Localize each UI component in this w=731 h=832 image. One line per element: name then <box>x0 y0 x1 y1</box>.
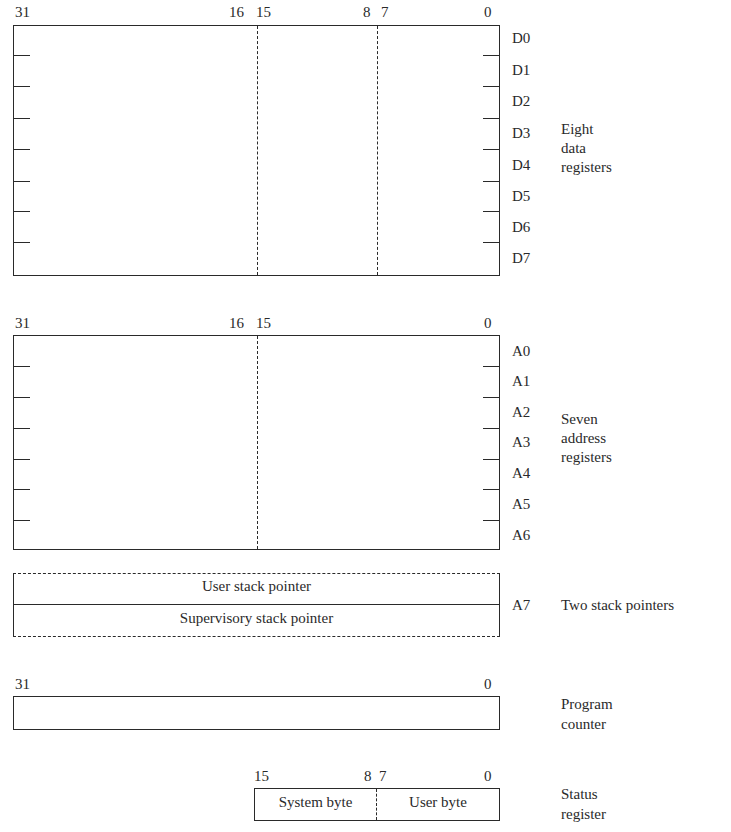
row-tick <box>483 428 499 429</box>
row-tick <box>483 489 499 490</box>
row-tick <box>14 211 30 212</box>
desc-line: Status <box>561 784 606 804</box>
row-tick <box>483 397 499 398</box>
address-registers-description: Seven address registers <box>561 410 612 467</box>
register-label-a0: A0 <box>512 343 530 359</box>
bit-label-7: 7 <box>381 4 389 20</box>
desc-line: Seven <box>561 410 612 429</box>
row-tick <box>483 211 499 212</box>
program-counter-block <box>13 696 500 730</box>
desc-line: register <box>561 804 606 824</box>
register-label-d6: D6 <box>512 219 530 235</box>
bit-label-15: 15 <box>254 768 269 784</box>
row-tick <box>483 149 499 150</box>
bit-label-0: 0 <box>484 4 492 20</box>
register-label-a1: A1 <box>512 373 530 389</box>
word-divider-dashed <box>257 336 258 549</box>
desc-line: address <box>561 429 612 448</box>
register-label-d4: D4 <box>512 157 530 173</box>
word-divider-dashed <box>257 26 258 275</box>
register-label-a5: A5 <box>512 496 530 512</box>
desc-line: Eight <box>561 120 612 139</box>
row-tick <box>14 118 30 119</box>
desc-line: registers <box>561 158 612 177</box>
bit-label-7: 7 <box>379 768 387 784</box>
desc-line: counter <box>561 714 613 734</box>
register-label-a7: A7 <box>512 597 530 613</box>
desc-line: registers <box>561 448 612 467</box>
row-tick <box>14 397 30 398</box>
row-tick <box>14 520 30 521</box>
bit-label-0: 0 <box>484 315 492 331</box>
register-label-a3: A3 <box>512 434 530 450</box>
row-tick <box>483 520 499 521</box>
system-byte: System byte <box>255 794 376 811</box>
byte-divider-dashed <box>377 26 378 275</box>
register-label-d3: D3 <box>512 125 530 141</box>
program-counter-description: Program counter <box>561 694 613 734</box>
row-tick <box>14 149 30 150</box>
bit-label-15: 15 <box>256 4 271 20</box>
row-tick <box>483 242 499 243</box>
stack-pointers-description: Two stack pointers <box>561 597 674 613</box>
data-registers-description: Eight data registers <box>561 120 612 177</box>
row-tick <box>14 459 30 460</box>
row-tick <box>483 181 499 182</box>
row-tick <box>14 55 30 56</box>
register-label-d5: D5 <box>512 188 530 204</box>
row-tick <box>483 459 499 460</box>
row-tick <box>483 86 499 87</box>
row-tick <box>14 242 30 243</box>
bit-label-16: 16 <box>229 315 244 331</box>
bit-label-15: 15 <box>256 315 271 331</box>
row-tick <box>14 428 30 429</box>
row-tick <box>14 86 30 87</box>
register-label-a2: A2 <box>512 404 530 420</box>
row-tick <box>483 55 499 56</box>
bit-label-31: 31 <box>15 676 30 692</box>
row-tick <box>14 181 30 182</box>
status-register-description: Status register <box>561 784 606 824</box>
register-label-a4: A4 <box>512 465 530 481</box>
user-byte: User byte <box>377 794 499 811</box>
register-label-d0: D0 <box>512 30 530 46</box>
bit-label-31: 31 <box>15 315 30 331</box>
register-label-a6: A6 <box>512 527 530 543</box>
register-label-d7: D7 <box>512 250 530 266</box>
desc-line: Program <box>561 694 613 714</box>
row-tick <box>14 366 30 367</box>
bit-label-16: 16 <box>229 4 244 20</box>
supervisory-stack-pointer: Supervisory stack pointer <box>14 610 499 627</box>
register-label-d1: D1 <box>512 62 530 78</box>
bit-label-8: 8 <box>363 4 371 20</box>
bit-label-0: 0 <box>484 676 492 692</box>
row-tick <box>483 366 499 367</box>
user-stack-pointer: User stack pointer <box>14 578 499 595</box>
row-tick <box>483 118 499 119</box>
stack-divider <box>14 604 499 605</box>
bit-label-0: 0 <box>484 768 492 784</box>
desc-line: data <box>561 139 612 158</box>
register-label-d2: D2 <box>512 93 530 109</box>
bit-label-8: 8 <box>364 768 372 784</box>
row-tick <box>14 489 30 490</box>
bit-label-31: 31 <box>15 4 30 20</box>
